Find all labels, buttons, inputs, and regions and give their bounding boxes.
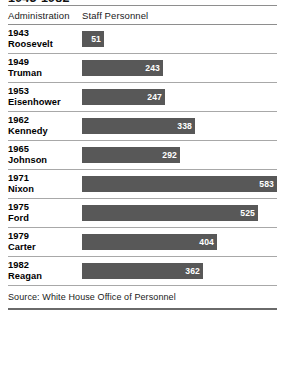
bar-track: 525 bbox=[82, 199, 277, 227]
column-header-staff-personnel: Staff Personnel bbox=[82, 10, 148, 21]
bar-track: 583 bbox=[82, 170, 277, 198]
table-row: 1965Johnson292 bbox=[8, 141, 277, 169]
bar-value-label: 243 bbox=[145, 64, 163, 73]
bar-staff-personnel: 404 bbox=[82, 234, 217, 250]
bar-value-label: 404 bbox=[199, 238, 217, 247]
bar-track: 51 bbox=[82, 25, 277, 53]
row-administration-name: Eisenhower bbox=[8, 97, 82, 108]
bar-value-label: 51 bbox=[91, 35, 104, 44]
chart-sheet: 1943-1982 Administration Staff Personnel… bbox=[0, 0, 285, 373]
page-title: 1943-1982 bbox=[8, 0, 70, 5]
chart-title-clipped: 1943-1982 bbox=[8, 0, 277, 5]
bar-staff-personnel: 338 bbox=[82, 118, 195, 134]
bar-value-label: 247 bbox=[147, 93, 165, 102]
row-year: 1962 bbox=[8, 115, 82, 126]
row-administration-name: Roosevelt bbox=[8, 39, 82, 50]
row-label-administration: 1949Truman bbox=[8, 57, 82, 78]
bar-staff-personnel: 292 bbox=[82, 147, 180, 163]
bar-value-label: 292 bbox=[162, 151, 180, 160]
row-administration-name: Reagan bbox=[8, 271, 82, 282]
row-year: 1953 bbox=[8, 86, 82, 97]
table-row: 1971Nixon583 bbox=[8, 170, 277, 198]
table-row: 1953Eisenhower247 bbox=[8, 83, 277, 111]
table-row: 1943Roosevelt51 bbox=[8, 25, 277, 53]
bar-staff-personnel: 583 bbox=[82, 176, 277, 192]
bar-value-label: 583 bbox=[259, 180, 277, 189]
bar-value-label: 362 bbox=[185, 267, 203, 276]
table-header-row: Administration Staff Personnel bbox=[8, 6, 277, 24]
table-row: 1982Reagan362 bbox=[8, 257, 277, 285]
row-label-administration: 1953Eisenhower bbox=[8, 86, 82, 107]
row-year: 1979 bbox=[8, 231, 82, 242]
bar-value-label: 338 bbox=[177, 122, 195, 131]
row-administration-name: Johnson bbox=[8, 155, 82, 166]
table-row: 1949Truman243 bbox=[8, 54, 277, 82]
bar-track: 247 bbox=[82, 83, 277, 111]
row-year: 1949 bbox=[8, 57, 82, 68]
row-label-administration: 1965Johnson bbox=[8, 144, 82, 165]
row-year: 1982 bbox=[8, 260, 82, 271]
bar-track: 338 bbox=[82, 112, 277, 140]
row-label-administration: 1971Nixon bbox=[8, 173, 82, 194]
bar-staff-personnel: 51 bbox=[82, 31, 104, 47]
row-label-administration: 1975Ford bbox=[8, 202, 82, 223]
bar-staff-personnel: 247 bbox=[82, 89, 165, 105]
bar-track: 362 bbox=[82, 257, 277, 285]
source-row: Source: White House Office of Personnel bbox=[8, 286, 277, 308]
table-row: 1962Kennedy338 bbox=[8, 112, 277, 140]
row-administration-name: Ford bbox=[8, 213, 82, 224]
row-year: 1943 bbox=[8, 28, 82, 39]
row-label-administration: 1943Roosevelt bbox=[8, 28, 82, 49]
bar-track: 292 bbox=[82, 141, 277, 169]
row-administration-name: Carter bbox=[8, 242, 82, 253]
column-header-administration: Administration bbox=[8, 10, 82, 21]
row-year: 1975 bbox=[8, 202, 82, 213]
table-row: 1979Carter404 bbox=[8, 228, 277, 256]
bar-track: 404 bbox=[82, 228, 277, 256]
table-row: 1975Ford525 bbox=[8, 199, 277, 227]
bar-staff-personnel: 525 bbox=[82, 205, 258, 221]
bar-value-label: 525 bbox=[240, 209, 258, 218]
row-year: 1971 bbox=[8, 173, 82, 184]
table-body: 1943Roosevelt511949Truman2431953Eisenhow… bbox=[8, 25, 277, 286]
bar-staff-personnel: 243 bbox=[82, 60, 163, 76]
row-administration-name: Truman bbox=[8, 68, 82, 79]
row-year: 1965 bbox=[8, 144, 82, 155]
row-administration-name: Nixon bbox=[8, 184, 82, 195]
bar-staff-personnel: 362 bbox=[82, 263, 203, 279]
source-note: Source: White House Office of Personnel bbox=[8, 292, 176, 302]
bottom-border bbox=[8, 308, 277, 310]
row-label-administration: 1962Kennedy bbox=[8, 115, 82, 136]
bar-track: 243 bbox=[82, 54, 277, 82]
row-administration-name: Kennedy bbox=[8, 126, 82, 137]
row-label-administration: 1982Reagan bbox=[8, 260, 82, 281]
row-label-administration: 1979Carter bbox=[8, 231, 82, 252]
